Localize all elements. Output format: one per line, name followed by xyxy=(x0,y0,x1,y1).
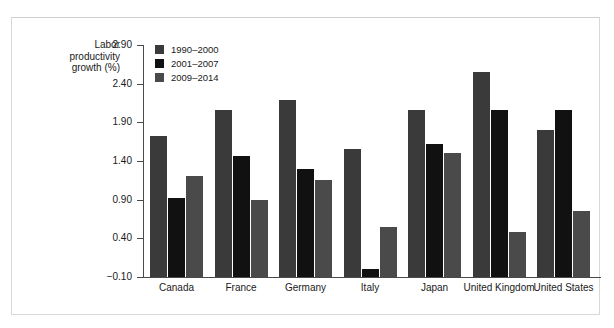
category-label: Italy xyxy=(334,282,407,294)
bar xyxy=(509,232,526,277)
bar xyxy=(537,130,554,277)
bar xyxy=(444,153,461,278)
y-tick-label: 0.90 xyxy=(76,194,132,205)
category-label: Germany xyxy=(269,282,342,294)
bar xyxy=(408,110,425,277)
bar xyxy=(279,100,296,277)
bar xyxy=(344,149,361,277)
bar-group xyxy=(537,45,590,277)
category-label: United States xyxy=(527,282,600,294)
category-label: Canada xyxy=(140,282,213,294)
bar xyxy=(380,227,397,277)
bar-group xyxy=(408,45,461,277)
bar xyxy=(555,110,572,277)
bar xyxy=(215,110,232,277)
bar xyxy=(186,176,203,277)
bar-group xyxy=(150,45,203,277)
bar xyxy=(573,211,590,278)
y-tick-label: 2.90 xyxy=(76,39,132,50)
y-tick-label: −0.10 xyxy=(76,271,132,282)
bar xyxy=(251,200,268,277)
bar xyxy=(491,110,508,277)
bar-group xyxy=(215,45,268,277)
category-label: France xyxy=(205,282,278,294)
y-tick-label: 0.40 xyxy=(76,232,132,243)
y-tick-label: 2.40 xyxy=(76,78,132,89)
category-label: United Kingdom xyxy=(463,282,536,294)
bar xyxy=(150,136,167,277)
bar-group xyxy=(473,45,526,277)
bar xyxy=(473,72,490,277)
bar xyxy=(315,180,332,277)
x-axis-line xyxy=(143,277,601,278)
y-tick-label: 1.90 xyxy=(76,116,132,127)
bar xyxy=(168,198,185,277)
bar-group xyxy=(344,45,397,277)
bar-group xyxy=(279,45,332,277)
category-label: Japan xyxy=(398,282,471,294)
bar xyxy=(426,144,443,277)
y-tick-mark xyxy=(137,277,143,278)
bar xyxy=(362,269,379,278)
chart-page: Labor productivity growth (%) 2.902.401.… xyxy=(0,0,614,328)
bar xyxy=(233,156,250,277)
y-tick-label: 1.40 xyxy=(76,155,132,166)
bar xyxy=(297,169,314,277)
plot-area xyxy=(143,45,600,277)
